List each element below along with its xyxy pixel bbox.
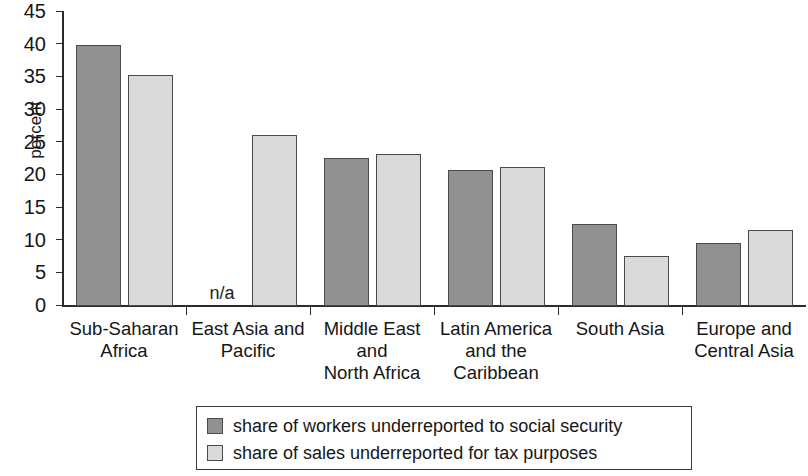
category-label-line: and the [428,340,564,362]
x-tick-mark [558,307,559,315]
category-label-2: Middle EastandNorth Africa [304,318,440,384]
plot-area: n/a [62,11,808,306]
y-tick-label-25: 25 [0,132,46,152]
category-label-line: South Asia [552,318,688,340]
x-tick-mark [434,307,435,315]
y-tick-label-20: 20 [0,164,46,184]
x-tick-mark [186,307,187,315]
y-tick-label-40: 40 [0,34,46,54]
category-label-1: East Asia andPacific [180,318,316,362]
bar-sales-0 [128,75,173,306]
y-tick-label-0: 0 [0,295,46,315]
bar-sales-3 [500,167,545,306]
legend-item-sales: share of sales underreported for tax pur… [207,439,691,466]
category-label-line: Caribbean [428,362,564,384]
legend-swatch-light-icon [207,445,223,461]
category-label-line: Pacific [180,340,316,362]
legend-label-sales: share of sales underreported for tax pur… [233,443,597,463]
bar-workers-3 [448,170,493,306]
bar-sales-2 [376,154,421,306]
category-label-line: East Asia and [180,318,316,340]
category-label-line: Latin America [428,318,564,340]
category-label-line: Europe and [676,318,808,340]
legend-swatch-dark-icon [207,418,223,434]
y-tick-label-45: 45 [0,1,46,21]
category-label-line: Central Asia [676,340,808,362]
bar-chart: percent 454035302520151050 n/a Sub-Sahar… [0,0,808,476]
bar-workers-5 [696,243,741,306]
bar-workers-4 [572,224,617,306]
category-label-4: South Asia [552,318,688,340]
y-tick-label-35: 35 [0,66,46,86]
legend-label-workers: share of workers underreported to social… [233,416,622,436]
x-tick-mark [310,307,311,315]
bar-sales-1 [252,135,297,306]
bar-workers-2 [324,158,369,306]
category-label-line: Africa [56,340,192,362]
y-tick-label-30: 30 [0,99,46,119]
chart-legend: share of workers underreported to social… [196,406,692,470]
category-label-line: Middle East [304,318,440,340]
legend-item-workers: share of workers underreported to social… [207,412,691,439]
bar-sales-4 [624,256,669,306]
y-tick-label-10: 10 [0,230,46,250]
y-tick-label-5: 5 [0,262,46,282]
category-label-line: North Africa [304,362,440,384]
category-label-3: Latin Americaand theCaribbean [428,318,564,384]
x-tick-mark [682,307,683,315]
category-label-5: Europe andCentral Asia [676,318,808,362]
category-label-0: Sub-SaharanAfrica [56,318,192,362]
category-label-line: and [304,340,440,362]
y-tick-label-15: 15 [0,197,46,217]
bar-na-label: n/a [200,283,245,304]
category-label-line: Sub-Saharan [56,318,192,340]
bar-workers-0 [76,45,121,306]
bar-sales-5 [748,230,793,306]
